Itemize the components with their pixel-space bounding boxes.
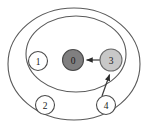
node-1[interactable]: 1 (29, 52, 48, 71)
node-2[interactable]: 2 (36, 96, 55, 115)
node-0[interactable]: 0 (63, 50, 84, 71)
node-1-circle[interactable] (29, 52, 48, 71)
node-0-circle[interactable] (63, 50, 84, 71)
node-4-circle[interactable] (97, 96, 116, 115)
nested-ellipse-diagram: 1 2 4 3 0 (0, 0, 150, 132)
node-3-circle[interactable] (100, 49, 122, 71)
node-3[interactable]: 3 (100, 49, 122, 71)
node-2-circle[interactable] (36, 96, 55, 115)
diagram-canvas: 1 2 4 3 0 (0, 0, 150, 132)
node-4[interactable]: 4 (97, 96, 116, 115)
edge-node4-to-node3 (102, 75, 110, 97)
